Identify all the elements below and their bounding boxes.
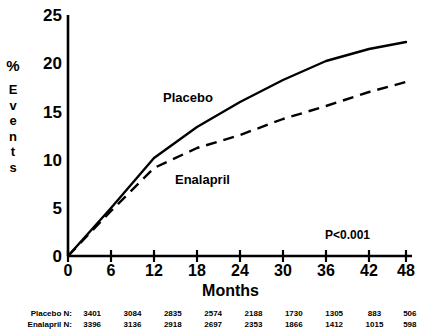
p-value-annotation: P<0.001 (325, 228, 370, 242)
y-axis-title-char-e: E (2, 82, 24, 98)
y-tick-25: 25 (28, 7, 62, 24)
x-tick-48: 48 (391, 263, 421, 279)
chart-figure: % E v e n t s 25 20 15 10 5 0 0 6 12 18 … (0, 0, 425, 334)
risk-enalapril-42: 1015 (354, 320, 394, 331)
x-axis-title-text: Months (202, 282, 259, 300)
risk-enalapril-12: 2918 (153, 320, 193, 331)
numbers-at-risk-table: Placebo N: 3401 3084 2835 2574 2188 1730… (0, 309, 425, 330)
x-tick-18: 18 (182, 263, 212, 279)
placebo-curve-label: Placebo (163, 90, 213, 105)
x-tick-0: 0 (53, 263, 83, 279)
x-tick-24: 24 (225, 263, 255, 279)
y-tick-20: 20 (28, 55, 62, 72)
risk-placebo-36: 1305 (314, 309, 354, 320)
table-row: Placebo N: 3401 3084 2835 2574 2188 1730… (0, 309, 425, 320)
y-axis-title: % E v e n t s (2, 58, 24, 175)
y-axis-title-percent: % (2, 58, 24, 73)
risk-placebo-6: 3084 (112, 309, 152, 320)
x-tick-30: 30 (268, 263, 298, 279)
risk-placebo-0: 3401 (72, 309, 112, 320)
y-tick-10: 10 (28, 152, 62, 169)
risk-enalapril-30: 1866 (274, 320, 314, 331)
x-tick-36: 36 (311, 263, 341, 279)
risk-enalapril-48: 598 (395, 320, 425, 331)
y-axis-title-char-v: v (2, 98, 24, 114)
y-tick-15: 15 (28, 104, 62, 121)
y-axis-title-char-s: s (2, 160, 24, 176)
risk-row-label-enalapril: Enalapril N: (0, 320, 72, 331)
risk-placebo-48: 506 (395, 309, 425, 320)
risk-placebo-24: 2188 (233, 309, 273, 320)
risk-enalapril-6: 3136 (112, 320, 152, 331)
y-axis-tick-labels: 25 20 15 10 5 0 (24, 0, 62, 300)
risk-enalapril-24: 2353 (233, 320, 273, 331)
risk-placebo-30: 1730 (274, 309, 314, 320)
risk-placebo-42: 883 (354, 309, 394, 320)
y-axis-title-char-n: n (2, 129, 24, 145)
enalapril-curve-label: Enalapril (175, 172, 230, 187)
x-tick-6: 6 (96, 263, 126, 279)
y-tick-5: 5 (28, 200, 62, 217)
risk-placebo-18: 2574 (193, 309, 233, 320)
series-placebo-line (68, 42, 406, 256)
risk-placebo-12: 2835 (153, 309, 193, 320)
x-tick-42: 42 (354, 263, 384, 279)
risk-enalapril-36: 1412 (314, 320, 354, 331)
y-axis-title-char-e2: e (2, 113, 24, 129)
table-row: Enalapril N: 3396 3136 2918 2697 2353 18… (0, 320, 425, 331)
risk-enalapril-0: 3396 (72, 320, 112, 331)
x-axis-title: Months (0, 282, 425, 300)
risk-enalapril-18: 2697 (193, 320, 233, 331)
risk-row-label-placebo: Placebo N: (0, 309, 72, 320)
x-tick-12: 12 (139, 263, 169, 279)
y-axis-title-char-t: t (2, 144, 24, 160)
